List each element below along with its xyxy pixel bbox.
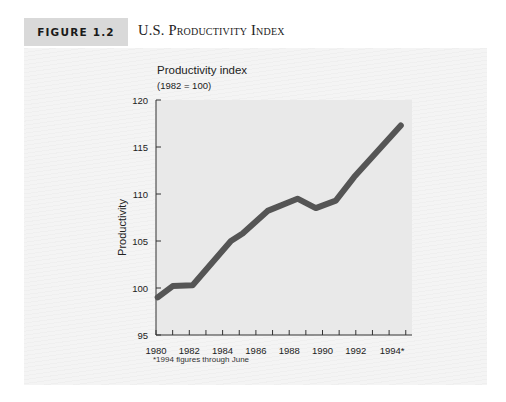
x-tick-label: 1988 <box>279 345 300 356</box>
y-tick-label: 95 <box>137 330 148 341</box>
y-tick-label: 100 <box>132 283 148 294</box>
y-tick-label: 110 <box>133 189 148 200</box>
x-tick-label: 1994* <box>380 345 405 356</box>
line-chart: 95100105110115120 1980198219841986198819… <box>0 0 506 402</box>
footnote: *1994 figures through June <box>153 355 249 364</box>
y-tick-label: 115 <box>133 142 148 153</box>
plot-area <box>156 100 412 335</box>
y-tick-label: 105 <box>132 236 148 247</box>
y-tick-label: 120 <box>132 95 148 106</box>
y-axis-label: Productivity <box>116 199 128 256</box>
x-tick-label: 1992 <box>345 345 366 356</box>
x-tick-label: 1990 <box>312 345 333 356</box>
